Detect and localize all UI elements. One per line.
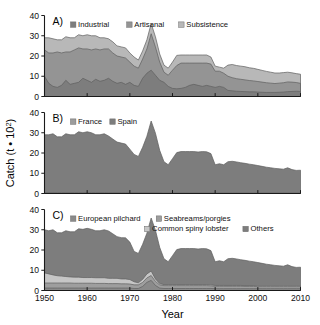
panel-letter-C: C) (53, 209, 64, 221)
panel-A: 010203040A)IndustrialArtisanalSubsistenc… (29, 11, 300, 102)
y-ticklabel-A-10: 10 (29, 71, 39, 81)
y-axis-title-part-dot: • (4, 139, 16, 146)
legend-label-others: Others (251, 224, 274, 233)
y-ticklabel-B-10: 10 (29, 168, 39, 178)
y-axis-title-part-main: Catch (t (4, 146, 16, 188)
legend-swatch-industrial (71, 22, 76, 27)
y-ticklabel-B-30: 30 (29, 128, 39, 138)
legend-swatch-subsistence (179, 22, 184, 27)
legend-swatch-spain (110, 119, 115, 124)
y-axis-title-text: Catch (t • 102) (4, 119, 16, 188)
legend-swatch-seabreams-porgies (156, 216, 161, 221)
panel-B: 010203040B)FranceSpain (29, 108, 300, 199)
y-axis-title-part-close: ) (4, 119, 16, 123)
y-ticklabel-A-20: 20 (29, 51, 39, 61)
y-ticklabel-A-30: 30 (29, 31, 39, 41)
legend-label-european-pilchard: European pilchard (78, 214, 140, 223)
y-ticklabel-B-0: 0 (34, 189, 39, 199)
x-ticklabel-2000: 2000 (248, 293, 267, 303)
y-ticklabel-A-0: 0 (34, 92, 39, 102)
x-ticklabel-1960: 1960 (78, 293, 97, 303)
x-ticklabel-2010: 2010 (291, 293, 310, 303)
legend-swatch-others (243, 226, 248, 231)
legend-swatch-artisanal (127, 22, 132, 27)
legend-label-spain: Spain (117, 117, 137, 126)
x-ticklabel-1990: 1990 (206, 293, 225, 303)
legend-label-common-spiny-lobster: Common spiny lobster (152, 224, 229, 233)
figure-stacked-area-catch-panels: 010203040A)IndustrialArtisanalSubsistenc… (0, 0, 320, 325)
y-axis-title: Catch (t • 102) (4, 119, 16, 188)
y-axis-title-part-unit: 10 (4, 127, 16, 139)
y-ticklabel-A-40: 40 (29, 11, 39, 21)
panel-letter-A: A) (53, 15, 64, 27)
legend-swatch-european-pilchard (71, 216, 76, 221)
y-ticklabel-B-20: 20 (29, 148, 39, 158)
panel-letter-B: B) (53, 112, 64, 124)
y-ticklabel-C-10: 10 (29, 265, 39, 275)
x-axis-title-text: Year (161, 308, 184, 320)
legend-swatch-common-spiny-lobster (145, 226, 150, 231)
legend-label-subsistence: Subsistence (186, 20, 228, 29)
x-ticklabel-1950: 1950 (35, 293, 54, 303)
y-ticklabel-B-40: 40 (29, 108, 39, 118)
chart-canvas: 010203040A)IndustrialArtisanalSubsistenc… (0, 0, 320, 325)
area-layer-spain (45, 121, 301, 193)
legend-label-france: France (78, 117, 102, 126)
x-ticklabel-1980: 1980 (163, 293, 182, 303)
x-ticklabel-1970: 1970 (120, 293, 139, 303)
legend-swatch-france (71, 119, 76, 124)
y-ticklabel-C-40: 40 (29, 205, 39, 215)
legend-label-industrial: Industrial (78, 20, 109, 29)
panel-C: 0102030401950196019701980199020002010C)E… (29, 205, 310, 303)
y-ticklabel-C-20: 20 (29, 245, 39, 255)
legend-label-seabreams-porgies: Seabreams/porgies (164, 214, 231, 223)
legend-label-artisanal: Artisanal (134, 20, 164, 29)
y-ticklabel-C-30: 30 (29, 225, 39, 235)
